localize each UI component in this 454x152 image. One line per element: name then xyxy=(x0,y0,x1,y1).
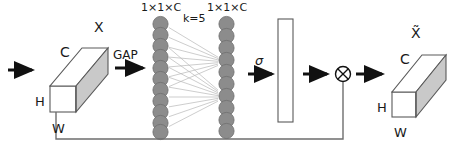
output-channels-label: C xyxy=(400,52,410,66)
conv1d-edges xyxy=(168,27,226,127)
channel-descriptor-column xyxy=(152,16,169,139)
multiply-node xyxy=(336,67,351,82)
output-tensor-label: X̃ xyxy=(411,26,421,40)
output-height-label: H xyxy=(377,101,387,114)
vector-left-label: 1×1×C xyxy=(141,2,181,13)
diagram-svg xyxy=(0,0,454,152)
input-width-label: W xyxy=(52,122,65,135)
attention-weight-bar xyxy=(278,19,293,122)
gap-label: GAP xyxy=(113,49,138,61)
input-channels-label: C xyxy=(60,45,70,59)
vector-right-label: 1×1×C xyxy=(207,2,247,13)
input-height-label: H xyxy=(35,95,45,108)
diagram-canvas: X C H W GAP 1×1×C k=5 1×1×C σ X̃ C H W xyxy=(0,0,454,152)
kernel-size-label: k=5 xyxy=(183,13,206,24)
channel-weights-column xyxy=(218,16,235,138)
input-tensor-label: X xyxy=(94,20,104,34)
sigmoid-label: σ xyxy=(255,54,263,67)
output-width-label: W xyxy=(394,126,407,139)
input-feature-cube xyxy=(50,48,108,112)
